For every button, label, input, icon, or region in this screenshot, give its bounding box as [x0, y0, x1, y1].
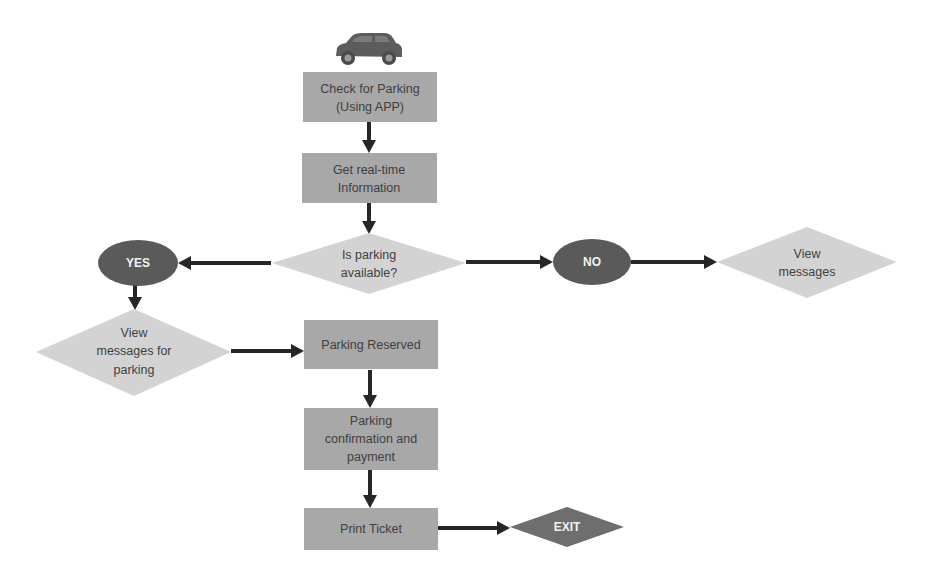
node-is-available: Is parking available? [272, 233, 466, 294]
node-view-messages-parking-line-1: View [121, 326, 149, 340]
flowchart: Check for Parking (Using APP) Get real-t… [0, 0, 932, 583]
node-reserved: Parking Reserved [304, 320, 438, 369]
node-confirmation-line-1: Parking [350, 414, 392, 428]
edge-print-to-exit [438, 521, 510, 535]
node-confirmation-line-2: confirmation and [325, 432, 417, 446]
node-exit: EXIT [510, 507, 624, 547]
edge-yes-to-view-messages-parking [128, 285, 142, 310]
node-is-available-line-2: available? [341, 266, 397, 280]
edge-decision-to-yes [178, 256, 271, 270]
node-view-messages-parking: View messages for parking [36, 309, 231, 396]
edge-check-to-realtime [362, 122, 376, 153]
node-view-messages: View messages [717, 227, 897, 298]
edge-confirmation-to-print [363, 470, 377, 508]
node-is-available-line-1: Is parking [342, 248, 396, 262]
node-realtime-info: Get real-time Information [302, 153, 437, 203]
node-no: NO [553, 239, 631, 285]
node-print-ticket: Print Ticket [304, 508, 438, 550]
node-check-parking-line-2: (Using APP) [336, 100, 404, 114]
node-reserved-label: Parking Reserved [321, 338, 420, 352]
node-view-messages-parking-line-3: parking [114, 363, 155, 377]
edge-reserved-to-confirmation [363, 370, 377, 408]
edge-realtime-to-decision [362, 203, 376, 234]
node-view-messages-parking-line-2: messages for [96, 344, 171, 358]
node-check-parking-line-1: Check for Parking [320, 82, 419, 96]
node-exit-label: EXIT [554, 520, 581, 534]
car-icon [336, 33, 402, 65]
node-view-messages-line-1: View [794, 247, 822, 261]
node-print-ticket-label: Print Ticket [340, 522, 402, 536]
edge-view-messages-parking-to-reserved [231, 344, 304, 358]
node-yes-label: YES [126, 256, 150, 270]
node-realtime-info-line-1: Get real-time [333, 163, 405, 177]
node-realtime-info-line-2: Information [338, 181, 401, 195]
node-view-messages-line-2: messages [779, 265, 836, 279]
node-confirmation-line-3: payment [347, 450, 395, 464]
edge-decision-to-no [466, 255, 553, 269]
node-yes: YES [98, 240, 178, 286]
node-confirmation: Parking confirmation and payment [304, 408, 438, 470]
node-no-label: NO [583, 255, 601, 269]
edge-no-to-view-messages [631, 255, 717, 269]
node-check-parking: Check for Parking (Using APP) [303, 72, 437, 122]
